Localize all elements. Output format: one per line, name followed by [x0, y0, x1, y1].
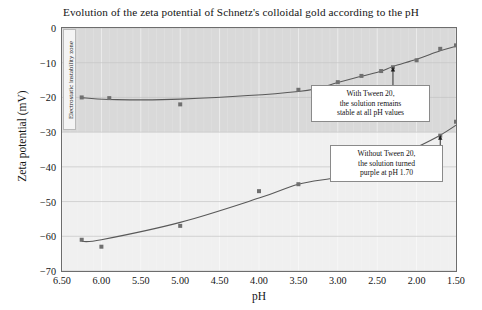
y-axis-tick-label: −40: [4, 161, 56, 172]
x-axis-tick-label: 5.50: [132, 275, 150, 286]
x-axis-tick-label: 4.50: [211, 275, 229, 286]
x-axis-tick-label: 5.00: [171, 275, 189, 286]
x-axis-tick-label: 4.00: [250, 275, 268, 286]
data-point-marker: [257, 189, 261, 193]
annotation-without-tween-line3: purple at pH 1.70: [335, 168, 438, 178]
y-axis-tick-label: −50: [4, 196, 56, 207]
y-axis-tick-label: 0: [4, 23, 56, 34]
annotation-with-tween: With Tween 20, the solution remains stab…: [311, 85, 430, 122]
x-axis-tick-label: 6.00: [92, 275, 110, 286]
chart-title: Evolution of the zeta potential of Schne…: [0, 6, 482, 18]
annotation-without-tween-line2: the solution turned: [335, 159, 438, 169]
data-point-marker: [336, 80, 340, 84]
annotation-with-tween-line2: the solution remains: [316, 99, 425, 109]
x-axis-label: pH: [61, 290, 457, 302]
y-axis-tick-label: −60: [4, 231, 56, 242]
x-axis-tick-label: 2.00: [408, 275, 426, 286]
annotation-without-tween-line1: Without Tween 20,: [335, 149, 438, 159]
data-point-marker: [379, 69, 383, 73]
y-axis-tick-label: −30: [4, 127, 56, 138]
trend-line: [82, 125, 456, 242]
x-axis-tick-label: 3.50: [289, 275, 307, 286]
x-axis-tick-label: 2.50: [368, 275, 386, 286]
data-point-marker: [178, 224, 182, 228]
annotation-with-tween-line3: stable at all pH values: [316, 108, 425, 118]
x-axis-tick-label: 6.50: [53, 275, 71, 286]
data-point-marker: [438, 47, 442, 51]
data-point-marker: [80, 95, 84, 99]
electrostatic-instability-zone-label: Electrostatic instability zone: [63, 29, 76, 130]
y-axis-tick-label: −70: [4, 266, 56, 277]
data-point-marker: [415, 58, 419, 62]
data-point-marker: [80, 238, 84, 242]
annotation-without-tween: Without Tween 20, the solution turned pu…: [330, 145, 443, 182]
data-point-marker: [454, 43, 456, 47]
y-axis-ticks: 0−10−20−30−40−50−60−70: [0, 27, 56, 272]
data-point-marker: [178, 102, 182, 106]
data-point-marker: [359, 74, 363, 78]
x-axis-tick-label: 3.00: [329, 275, 347, 286]
annotation-with-tween-line1: With Tween 20,: [316, 89, 425, 99]
y-axis-tick-label: −10: [4, 57, 56, 68]
chart-figure: Evolution of the zeta potential of Schne…: [0, 0, 482, 310]
data-point-marker: [454, 120, 456, 124]
y-axis-tick-label: −20: [4, 92, 56, 103]
x-axis-ticks: 6.506.005.505.004.504.003.503.002.502.00…: [61, 275, 457, 291]
y-axis-label: Zeta potential (mV): [16, 36, 28, 236]
data-point-marker: [296, 182, 300, 186]
x-axis-tick-label: 1.50: [447, 275, 465, 286]
data-point-marker: [99, 245, 103, 249]
data-point-marker: [107, 96, 111, 100]
data-point-marker: [296, 88, 300, 92]
zone-label-text: Electrostatic instability zone: [66, 40, 73, 118]
